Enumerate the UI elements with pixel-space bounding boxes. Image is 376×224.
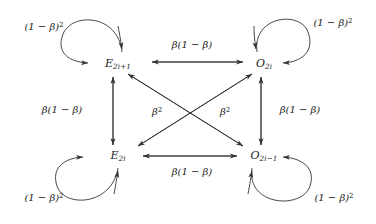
node-e-2i-plus-1-base: E [105,57,113,70]
edge-label-top-horizontal: β(1 − β) [172,40,212,50]
self-loop-label-bottom-right-base: (1 − β) [314,192,349,203]
node-e-2i-plus-1: E2i+1 [103,58,133,70]
self-loop-label-top-right: (1 − β)2 [313,18,352,28]
self-loop-label-bottom-left: (1 − β)2 [24,193,63,203]
edge-label-diagonal-left: β2 [152,107,162,117]
node-o-2i-subscript: 2i [265,62,272,71]
self-loop-bottom-right-arrowhead-2 [248,171,252,194]
self-loop-label-top-left: (1 − β)2 [24,22,63,32]
node-o-2i-minus-1: O2i−1 [249,150,280,162]
transition-diagram: E2i+1 O2i E2i O2i−1 β(1 − β) β(1 − β) β(… [0,0,376,224]
edge-label-diagonal-right: β2 [220,107,230,117]
edge-label-diagonal-right-exponent: 2 [226,106,230,114]
self-loop-label-top-left-base: (1 − β) [24,21,59,32]
self-loop-bottom-left [56,157,118,200]
self-loop-label-top-left-exponent: 2 [59,21,63,29]
edge-label-bottom-horizontal-text: β(1 − β) [172,166,212,177]
edge-label-left-vertical: β(1 − β) [42,105,82,115]
self-loop-label-bottom-left-exponent: 2 [59,192,63,200]
node-e-2i: E2i [108,150,127,162]
self-loop-label-top-right-base: (1 − β) [313,17,348,28]
node-e-2i-subscript: 2i [118,154,125,163]
self-loop-bottom-left-arrowhead-2 [114,171,118,194]
edge-label-right-vertical: β(1 − β) [280,105,320,115]
self-loop-label-bottom-right: (1 − β)2 [314,193,353,203]
self-loop-label-top-right-exponent: 2 [348,17,352,25]
node-e-2i-plus-1-subscript: 2i+1 [113,62,131,71]
edge-label-left-vertical-text: β(1 − β) [42,104,82,115]
node-o-2i-minus-1-subscript: 2i−1 [260,154,278,163]
self-loop-top-left-arrowhead-2 [118,26,122,49]
edge-label-bottom-horizontal: β(1 − β) [172,167,212,177]
edge-label-top-horizontal-text: β(1 − β) [172,39,212,50]
edge-label-diagonal-left-exponent: 2 [158,106,162,114]
node-o-2i: O2i [254,58,274,70]
self-loop-bottom-right [252,157,312,201]
node-e-2i-base: E [110,149,118,162]
self-loop-top-right-arrowhead-2 [254,26,256,49]
self-loop-label-bottom-right-exponent: 2 [349,192,353,200]
node-o-2i-minus-1-base: O [251,149,260,162]
node-o-2i-base: O [256,57,265,70]
self-loop-label-bottom-left-base: (1 − β) [24,192,59,203]
edge-label-right-vertical-text: β(1 − β) [280,104,320,115]
